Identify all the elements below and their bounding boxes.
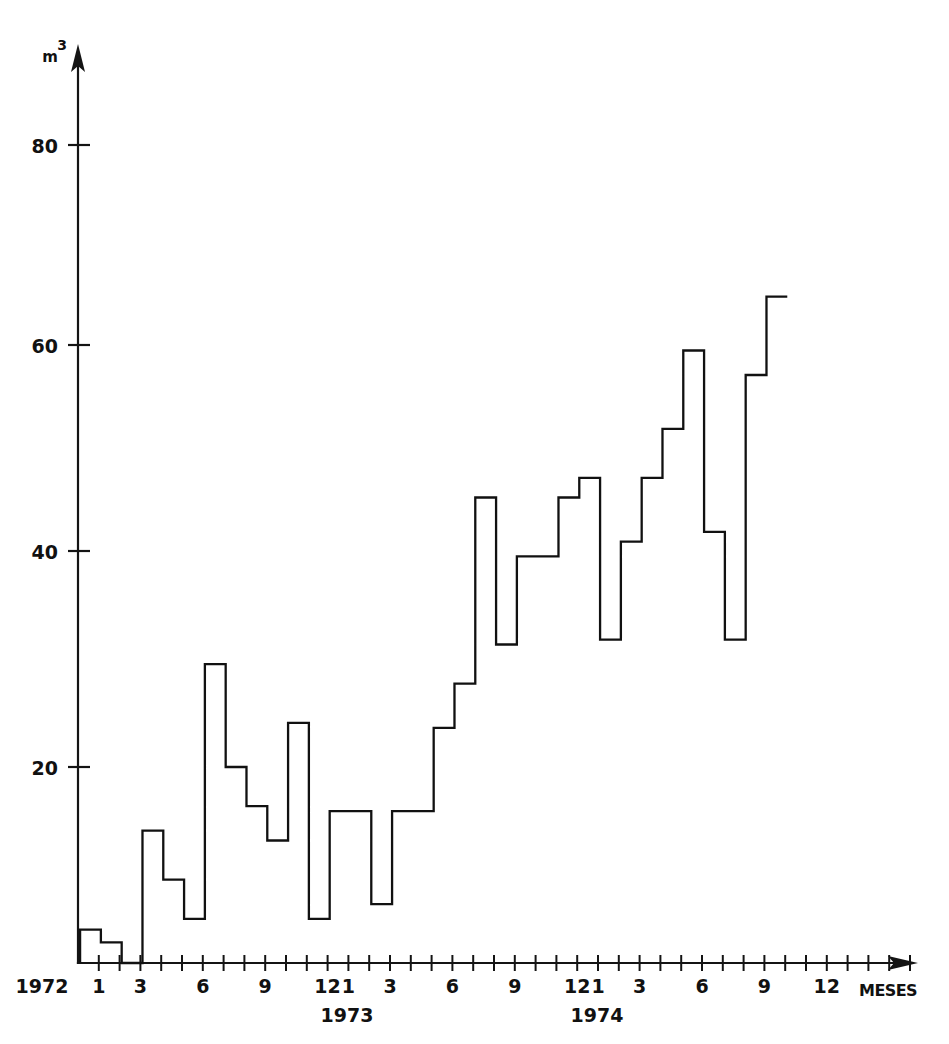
step-chart: 20 40 60 80 m 3 136912136912136912 1972 …	[0, 0, 949, 1044]
x-tick-label: 6	[196, 975, 209, 997]
y-axis-unit-label: m	[42, 48, 58, 66]
x-tick-label: 6	[446, 975, 459, 997]
x-tick-label: 3	[633, 975, 646, 997]
y-tick-label-60: 60	[32, 335, 58, 357]
y-tick-label-20: 20	[32, 757, 58, 779]
x-tick-label: 1	[591, 975, 604, 997]
x-tick-label: 1	[92, 975, 105, 997]
year-label-1974: 1974	[571, 1004, 624, 1026]
y-tick-label-80: 80	[32, 135, 58, 157]
x-tick-label: 12	[564, 975, 590, 997]
data-step-path	[80, 297, 787, 963]
x-axis-tick-labels: 136912136912136912	[92, 975, 840, 997]
x-tick-label: 3	[134, 975, 147, 997]
figure-container: 20 40 60 80 m 3 136912136912136912 1972 …	[0, 0, 949, 1044]
x-tick-label: 3	[383, 975, 396, 997]
x-tick-label: 12	[314, 975, 340, 997]
year-label-1972: 1972	[16, 975, 69, 997]
x-axis-name-label: MESES	[859, 981, 917, 1000]
y-tick-label-40: 40	[32, 541, 58, 563]
x-tick-label: 9	[259, 975, 272, 997]
x-tick-label: 6	[695, 975, 708, 997]
year-label-1973: 1973	[321, 1004, 374, 1026]
x-tick-label: 12	[814, 975, 840, 997]
x-tick-label: 1	[342, 975, 355, 997]
x-tick-label: 9	[758, 975, 771, 997]
y-axis-unit-exponent: 3	[57, 37, 67, 53]
x-tick-label: 9	[508, 975, 521, 997]
